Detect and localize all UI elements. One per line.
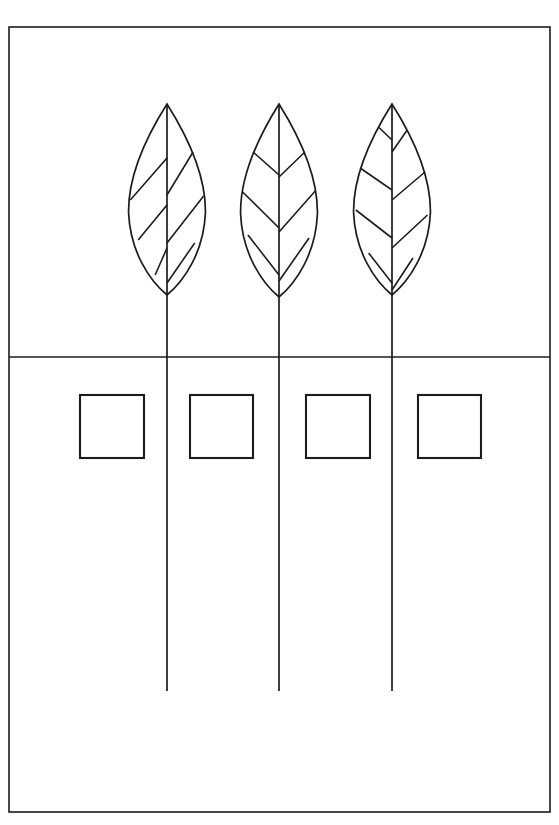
leaf-group xyxy=(129,104,431,297)
answer-box-1[interactable] xyxy=(80,395,144,458)
answer-box-2[interactable] xyxy=(190,395,253,458)
answer-box-4[interactable] xyxy=(418,395,481,458)
figure-canvas: ··················· xyxy=(0,0,559,825)
answer-box-3[interactable] xyxy=(306,395,370,458)
leaf-diagram-svg xyxy=(0,0,559,825)
